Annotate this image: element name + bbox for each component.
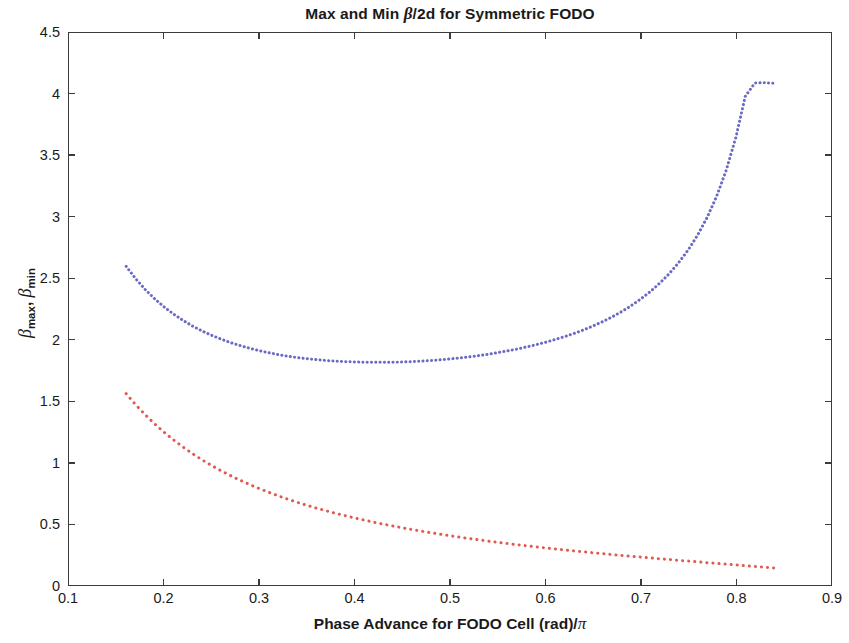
chart-title: Max and Min β/2d for Symmetric FODO — [68, 4, 832, 24]
y-tick-label-0: 0 — [0, 578, 60, 594]
beta-symbol-max: β — [15, 329, 35, 338]
y-tick-mark-left-3 — [68, 401, 75, 402]
x-tick-label-4: 0.5 — [440, 590, 460, 606]
x-axis-label: Phase Advance for FODO Cell (rad)/π — [68, 614, 832, 634]
figure-canvas: Max and Min β/2d for Symmetric FODO 0.10… — [0, 0, 849, 643]
x-tick-mark-bottom-5 — [545, 579, 546, 586]
y-tick-mark-right-1 — [825, 524, 832, 525]
x-tick-mark-top-5 — [545, 32, 546, 39]
chart-title-before: Max and Min — [305, 5, 404, 22]
x-tick-label-1: 0.2 — [153, 590, 173, 606]
chart-title-after: /2d for Symmetric FODO — [413, 5, 595, 22]
y-tick-label-9: 4.5 — [0, 24, 60, 40]
beta-subscript-max: max — [25, 306, 37, 329]
x-tick-label-8: 0.9 — [822, 590, 842, 606]
x-tick-mark-bottom-2 — [258, 579, 259, 586]
x-tick-mark-bottom-3 — [354, 579, 355, 586]
x-tick-label-3: 0.4 — [344, 590, 364, 606]
x-tick-mark-bottom-7 — [736, 579, 737, 586]
x-tick-mark-top-6 — [640, 32, 641, 39]
x-tick-mark-top-4 — [449, 32, 450, 39]
plot-svg — [69, 33, 831, 585]
x-tick-mark-top-3 — [354, 32, 355, 39]
series-line-beta_min — [126, 394, 774, 568]
y-tick-mark-left-6 — [68, 216, 75, 217]
y-axis-label-separator: , — [17, 297, 34, 306]
beta-subscript-min: min — [25, 268, 37, 288]
x-tick-mark-bottom-4 — [449, 579, 450, 586]
x-tick-label-5: 0.6 — [535, 590, 555, 606]
x-tick-mark-top-7 — [736, 32, 737, 39]
y-tick-mark-right-6 — [825, 216, 832, 217]
x-tick-mark-top-2 — [258, 32, 259, 39]
y-tick-mark-right-3 — [825, 401, 832, 402]
y-tick-label-1: 0.5 — [0, 516, 60, 532]
x-axis-label-text: Phase Advance for FODO Cell (rad)/ — [314, 615, 578, 632]
y-tick-mark-right-4 — [825, 339, 832, 340]
y-tick-mark-right-5 — [825, 278, 832, 279]
x-tick-label-0: 0.1 — [58, 590, 78, 606]
y-tick-label-8: 4 — [0, 86, 60, 102]
beta-symbol-min: β — [15, 288, 35, 297]
x-tick-mark-top-1 — [163, 32, 164, 39]
y-tick-mark-left-5 — [68, 278, 75, 279]
series-line-beta_max — [126, 83, 774, 363]
series-layer — [126, 83, 774, 568]
y-tick-mark-left-1 — [68, 524, 75, 525]
y-tick-mark-right-8 — [825, 93, 832, 94]
y-tick-mark-right-2 — [825, 462, 832, 463]
x-tick-label-6: 0.7 — [631, 590, 651, 606]
x-tick-mark-bottom-6 — [640, 579, 641, 586]
y-tick-mark-left-8 — [68, 93, 75, 94]
pi-symbol: π — [578, 614, 587, 633]
x-tick-label-2: 0.3 — [249, 590, 269, 606]
y-tick-mark-right-7 — [825, 154, 832, 155]
y-tick-mark-left-7 — [68, 154, 75, 155]
y-tick-mark-left-2 — [68, 462, 75, 463]
x-tick-label-7: 0.8 — [726, 590, 746, 606]
plot-area — [68, 32, 832, 586]
beta-symbol-title: β — [404, 4, 413, 23]
y-axis-label: βmax, βmin — [15, 143, 37, 463]
y-tick-mark-left-4 — [68, 339, 75, 340]
x-tick-mark-bottom-1 — [163, 579, 164, 586]
